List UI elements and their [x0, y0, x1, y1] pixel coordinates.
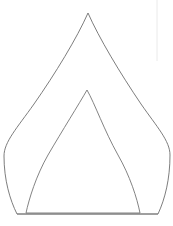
drawing-canvas [0, 0, 173, 226]
arch-figure [0, 0, 173, 226]
